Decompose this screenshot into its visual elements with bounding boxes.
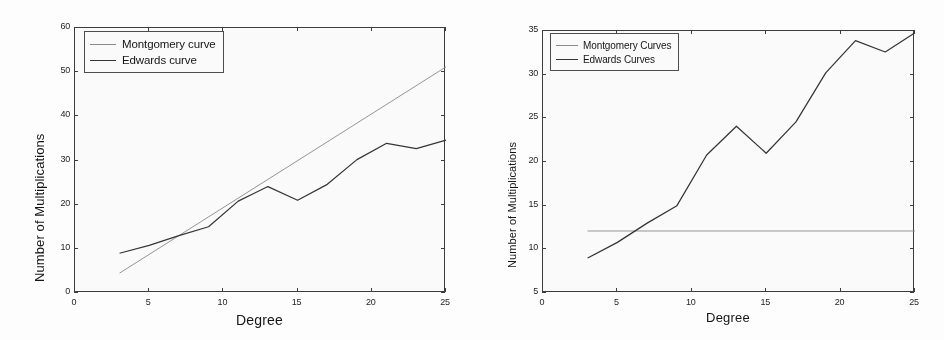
x-axis-title-right: Degree: [542, 310, 914, 325]
y-tick-mark: [542, 248, 546, 249]
x-tick-label: 15: [750, 297, 780, 307]
legend-line-swatch-montgomery-icon: [90, 44, 116, 45]
y-tick-mark: [542, 205, 546, 206]
y-tick-mark: [542, 292, 546, 293]
y-axis-title-left: Number of Multiplications: [32, 134, 47, 282]
x-axis-title-left: Degree: [74, 312, 445, 328]
legend-line-swatch-edwards-icon: [90, 60, 116, 61]
x-tick-label: 0: [527, 297, 557, 307]
y-tick-mark: [74, 248, 78, 249]
y-tick-mark: [910, 117, 914, 118]
x-tick-label: 5: [601, 297, 631, 307]
y-tick-mark: [441, 71, 445, 72]
x-tick-mark: [445, 288, 446, 292]
y-tick-label: 50: [48, 65, 70, 75]
y-tick-mark: [441, 160, 445, 161]
legend-item-montgomery: Montgomery curve: [90, 36, 216, 52]
y-tick-label: 10: [516, 242, 538, 252]
x-tick-mark: [765, 30, 766, 34]
y-tick-mark: [74, 115, 78, 116]
y-tick-label: 25: [516, 111, 538, 121]
legend-label-edwards: Edwards curve: [122, 54, 197, 66]
legend-item-montgomery: Montgomery Curves: [556, 38, 671, 52]
legend-line-swatch-edwards-icon: [556, 59, 578, 60]
y-tick-mark: [74, 204, 78, 205]
y-tick-mark: [441, 292, 445, 293]
x-tick-label: 10: [676, 297, 706, 307]
y-tick-label: 30: [48, 154, 70, 164]
x-tick-mark: [616, 288, 617, 292]
x-tick-label: 0: [59, 297, 89, 307]
y-tick-label: 30: [516, 68, 538, 78]
y-tick-mark: [910, 161, 914, 162]
x-tick-mark: [914, 30, 915, 34]
y-tick-mark: [910, 205, 914, 206]
y-tick-mark: [74, 71, 78, 72]
y-tick-mark: [910, 74, 914, 75]
legend-line-swatch-montgomery-icon: [556, 45, 578, 46]
y-tick-label: 60: [48, 21, 70, 31]
legend-label-montgomery: Montgomery Curves: [583, 40, 671, 51]
y-tick-mark: [542, 30, 546, 31]
x-tick-mark: [371, 288, 372, 292]
x-tick-label: 25: [899, 297, 929, 307]
y-tick-label: 40: [48, 109, 70, 119]
chart-panel-left: 0102030405060 0510152025 Degree Number o…: [0, 0, 472, 340]
legend-label-montgomery: Montgomery curve: [122, 38, 216, 50]
legend-item-edwards: Edwards Curves: [556, 52, 671, 66]
x-tick-label: 15: [282, 297, 312, 307]
chart-panel-right: 5101520253035 0510152025 Degree Number o…: [472, 0, 944, 340]
y-tick-mark: [542, 161, 546, 162]
x-tick-mark: [840, 30, 841, 34]
y-tick-label: 10: [48, 242, 70, 252]
x-tick-mark: [222, 288, 223, 292]
legend-right: Montgomery Curves Edwards Curves: [550, 33, 679, 71]
legend-label-edwards: Edwards Curves: [583, 54, 655, 65]
y-tick-label: 15: [516, 199, 538, 209]
x-tick-label: 5: [133, 297, 163, 307]
x-tick-mark: [297, 27, 298, 31]
series-montgomery: [120, 67, 446, 273]
y-tick-mark: [910, 292, 914, 293]
x-tick-label: 20: [825, 297, 855, 307]
y-tick-mark: [441, 248, 445, 249]
x-tick-mark: [914, 288, 915, 292]
y-tick-label: 0: [48, 286, 70, 296]
y-tick-label: 5: [516, 286, 538, 296]
x-tick-mark: [691, 288, 692, 292]
y-tick-mark: [441, 115, 445, 116]
y-tick-mark: [542, 74, 546, 75]
y-axis-title-right: Number of Multiplications: [506, 142, 518, 268]
x-tick-mark: [691, 30, 692, 34]
x-tick-mark: [148, 288, 149, 292]
legend-item-edwards: Edwards curve: [90, 52, 216, 68]
x-tick-mark: [840, 288, 841, 292]
x-tick-label: 25: [430, 297, 460, 307]
x-tick-mark: [371, 27, 372, 31]
y-tick-mark: [441, 204, 445, 205]
y-tick-mark: [910, 248, 914, 249]
y-tick-mark: [74, 160, 78, 161]
series-edwards: [120, 140, 446, 253]
x-tick-mark: [445, 27, 446, 31]
x-tick-label: 10: [207, 297, 237, 307]
y-tick-label: 20: [516, 155, 538, 165]
y-tick-label: 20: [48, 198, 70, 208]
x-tick-label: 20: [356, 297, 386, 307]
legend-left: Montgomery curve Edwards curve: [84, 31, 224, 73]
y-tick-label: 35: [516, 24, 538, 34]
x-tick-mark: [765, 288, 766, 292]
x-tick-mark: [297, 288, 298, 292]
y-tick-mark: [74, 27, 78, 28]
y-tick-mark: [542, 117, 546, 118]
y-tick-mark: [74, 292, 78, 293]
